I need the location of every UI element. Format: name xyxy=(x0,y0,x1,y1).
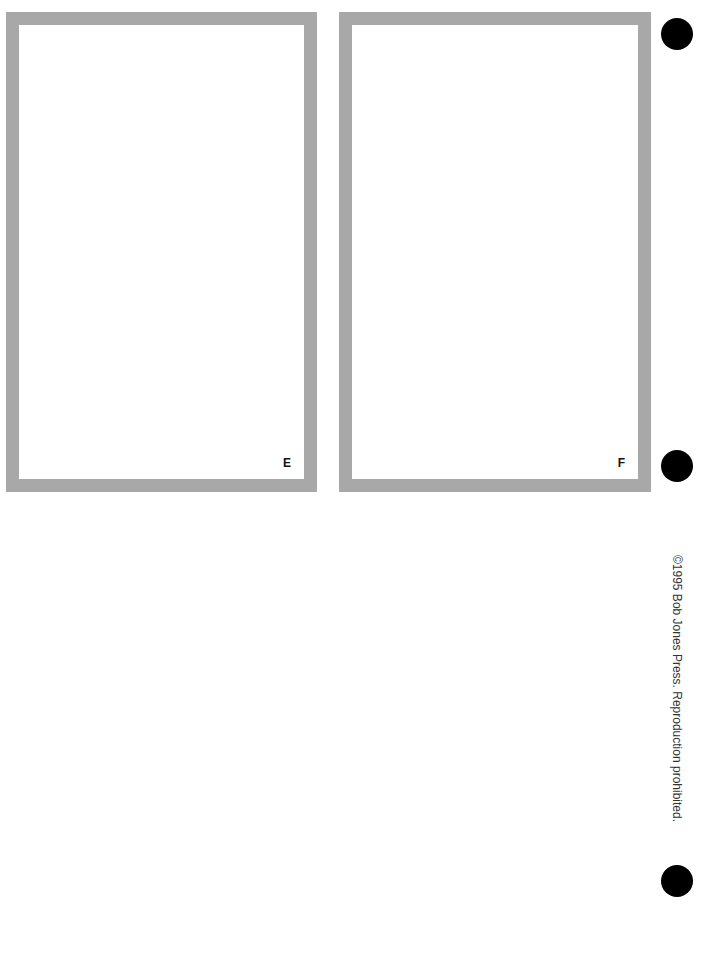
punch-hole-icon xyxy=(661,450,693,482)
frame-e: E xyxy=(6,12,317,492)
frame-label-f: F xyxy=(618,456,625,470)
copyright-notice: ©1995 Bob Jones Press. Reproduction proh… xyxy=(670,555,684,822)
frame-f: F xyxy=(339,12,651,492)
frame-label-e: E xyxy=(283,456,291,470)
punch-hole-icon xyxy=(661,18,693,50)
punch-hole-icon xyxy=(661,865,693,897)
